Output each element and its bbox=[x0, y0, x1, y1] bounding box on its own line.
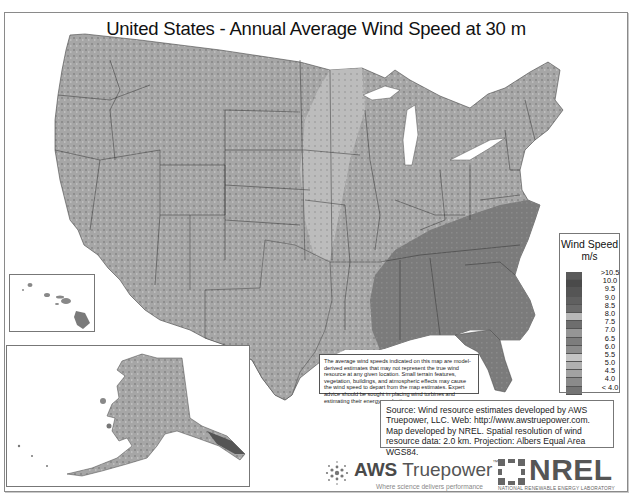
legend-title: Wind Speed bbox=[560, 238, 619, 250]
alaska-inset bbox=[6, 345, 250, 487]
legend-swatch bbox=[566, 297, 582, 305]
aws-tagline: Where science delivers performance bbox=[376, 483, 483, 490]
hawaii-inset bbox=[9, 274, 95, 332]
legend-swatch bbox=[566, 272, 582, 280]
legend-swatches bbox=[566, 272, 582, 395]
logos-area: AWS Truepower™ Where science delivers pe… bbox=[318, 455, 618, 493]
legend-swatch bbox=[566, 378, 582, 386]
hawaii-map bbox=[10, 275, 94, 331]
legend-swatch bbox=[566, 288, 582, 296]
nrel-logo-icon bbox=[498, 459, 526, 485]
legend-swatch bbox=[566, 329, 582, 337]
legend-swatch bbox=[566, 313, 582, 321]
legend-label: < 4.0 bbox=[600, 384, 620, 392]
aws-truepower-logo-text: AWS Truepower™ bbox=[354, 459, 498, 481]
legend-swatch bbox=[566, 338, 582, 346]
nrel-logo-text: NREL bbox=[529, 453, 613, 487]
wind-speed-legend: Wind Speed m/s >10.510.09.59.08.58.07.57… bbox=[559, 233, 620, 393]
nrel-tagline: NATIONAL RENEWABLE ENERGY LABORATORY bbox=[498, 486, 615, 491]
source-box: Source: Wind resource estimates develope… bbox=[380, 400, 614, 448]
legend-swatch bbox=[566, 321, 582, 329]
alaska-map bbox=[7, 346, 249, 486]
aws-truepower-logo-icon bbox=[322, 459, 352, 487]
legend-swatch bbox=[566, 346, 582, 354]
legend-swatch bbox=[566, 370, 582, 378]
legend-labels: >10.510.09.59.08.58.07.57.06.56.05.55.04… bbox=[600, 269, 620, 392]
legend-swatch bbox=[566, 280, 582, 288]
legend-swatch bbox=[566, 387, 582, 395]
disclaimer-box: The average wind speeds indicated on thi… bbox=[319, 354, 479, 394]
legend-swatch bbox=[566, 362, 582, 370]
legend-swatch bbox=[566, 354, 582, 362]
legend-swatch bbox=[566, 305, 582, 313]
legend-unit: m/s bbox=[560, 251, 619, 262]
